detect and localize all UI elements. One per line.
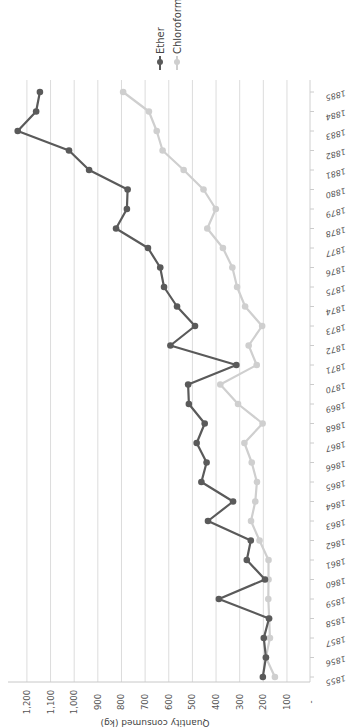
data-point xyxy=(153,128,160,135)
x-tick-label: 1878 xyxy=(325,225,347,239)
legend-label: Chloroform xyxy=(172,0,183,54)
x-tick-label: 1879 xyxy=(325,205,347,219)
data-point xyxy=(235,401,242,408)
data-point xyxy=(241,440,248,447)
data-point xyxy=(256,537,263,544)
x-tick-label: 1863 xyxy=(325,517,347,531)
data-point xyxy=(213,206,220,213)
data-point xyxy=(217,381,224,388)
data-point xyxy=(201,420,208,427)
x-tick-label: 1874 xyxy=(325,303,347,317)
x-tick-label: 1868 xyxy=(325,420,347,434)
y-tick-label: 200 xyxy=(258,694,268,710)
data-point xyxy=(66,147,73,154)
data-point xyxy=(230,498,237,505)
data-point xyxy=(86,167,93,174)
data-point xyxy=(203,459,210,466)
data-point xyxy=(157,264,164,271)
x-tick-label: 1871 xyxy=(325,361,347,375)
data-point xyxy=(161,284,168,291)
x-tick-label: 1861 xyxy=(325,556,347,570)
data-point xyxy=(146,108,153,115)
y-tick-label: 1,000 xyxy=(69,690,79,714)
data-point xyxy=(234,284,241,291)
data-point xyxy=(198,479,205,486)
y-tick-label: 800 xyxy=(116,694,126,710)
x-tick-label: 1860 xyxy=(325,576,347,590)
x-tick-label: 1870 xyxy=(325,381,347,395)
data-point xyxy=(242,303,249,310)
data-point xyxy=(248,459,255,466)
data-point xyxy=(174,303,181,310)
y-axis-title: Quantity consumed (kg) xyxy=(100,718,209,727)
data-point xyxy=(14,128,21,135)
data-point xyxy=(254,479,261,486)
legend-marker-icon xyxy=(174,59,180,65)
data-point xyxy=(259,420,266,427)
y-tick-label: 300 xyxy=(235,694,245,710)
y-tick-label: 600 xyxy=(164,694,174,710)
x-tick-label: 1882 xyxy=(325,147,347,161)
x-tick-label: 1856 xyxy=(325,654,347,668)
x-tick-label: 1881 xyxy=(325,166,347,180)
x-tick-label: 1872 xyxy=(325,342,347,356)
x-tick-label: 1855 xyxy=(325,673,347,687)
data-point xyxy=(186,401,193,408)
data-point xyxy=(265,557,272,564)
series-chloroform xyxy=(120,89,278,681)
data-point xyxy=(265,596,272,603)
data-point xyxy=(205,518,212,525)
y-tick-label: 400 xyxy=(211,694,221,710)
x-tick-label: 1880 xyxy=(325,186,347,200)
x-tick-label: 1885 xyxy=(325,88,347,102)
data-point xyxy=(267,635,274,642)
x-tick-label: 1864 xyxy=(325,498,347,512)
y-tick-label: 1,100 xyxy=(46,690,56,714)
x-tick-label: 1859 xyxy=(325,595,347,609)
data-point xyxy=(245,342,252,349)
x-tick-label: 1867 xyxy=(324,439,347,453)
x-tick-label: 1862 xyxy=(325,537,347,551)
legend-marker-icon xyxy=(157,59,163,65)
data-point xyxy=(247,537,254,544)
data-point xyxy=(120,89,127,96)
y-tick-label: 1,200 xyxy=(22,690,32,714)
x-tick-label: 1875 xyxy=(325,283,347,297)
legend: EtherChloroform xyxy=(155,0,183,70)
data-point xyxy=(266,615,273,622)
data-point xyxy=(243,557,250,564)
data-point xyxy=(159,147,166,154)
x-tick-label: 1865 xyxy=(325,478,347,492)
data-point xyxy=(200,186,207,193)
data-point xyxy=(260,674,267,681)
data-point xyxy=(33,108,40,115)
data-point xyxy=(262,576,269,583)
data-point xyxy=(167,342,174,349)
data-point xyxy=(272,674,279,681)
x-tick-label: 1876 xyxy=(325,264,347,278)
data-point xyxy=(259,323,266,330)
data-point xyxy=(113,225,120,232)
data-point xyxy=(37,89,44,96)
series-ether xyxy=(14,89,272,681)
data-point xyxy=(229,264,236,271)
data-point xyxy=(248,518,255,525)
x-tick-label: 1883 xyxy=(325,127,347,141)
data-point xyxy=(260,635,267,642)
y-tick-label: - xyxy=(306,700,316,703)
data-point xyxy=(192,323,199,330)
x-tick-label: 1857 xyxy=(324,634,347,648)
legend-label: Ether xyxy=(155,26,166,54)
data-point xyxy=(145,245,152,252)
data-point xyxy=(263,654,270,661)
x-tick-label: 1866 xyxy=(325,459,347,473)
line-chart: -1002003004005006007008009001,0001,1001,… xyxy=(0,0,350,727)
data-point xyxy=(193,440,200,447)
x-tick-label: 1877 xyxy=(324,244,347,258)
data-point xyxy=(253,362,260,369)
y-tick-label: 700 xyxy=(140,694,150,710)
x-tick-label: 1858 xyxy=(325,615,347,629)
x-tick-label: 1869 xyxy=(325,400,347,414)
data-point xyxy=(124,186,131,193)
data-point xyxy=(124,206,131,213)
